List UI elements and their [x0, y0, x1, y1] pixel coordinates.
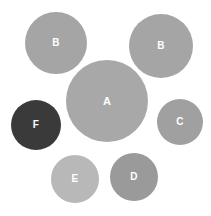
bubble-a-0[interactable]: A [66, 60, 148, 142]
bubble-label: E [72, 174, 79, 184]
bubble-label: F [33, 120, 39, 130]
bubble-label: B [52, 38, 59, 48]
bubble-label: D [130, 172, 137, 182]
bubble-c-3[interactable]: C [157, 99, 203, 145]
bubble-b-2[interactable]: B [129, 14, 193, 78]
bubble-f-6[interactable]: F [11, 100, 61, 150]
bubble-label: B [157, 41, 164, 51]
bubble-diagram-canvas: ABBCDEF [0, 0, 211, 216]
bubble-b-1[interactable]: B [25, 12, 87, 74]
bubble-label: C [176, 117, 183, 127]
bubble-e-5[interactable]: E [51, 155, 99, 203]
bubble-label: A [103, 96, 111, 107]
bubble-d-4[interactable]: D [110, 153, 158, 201]
